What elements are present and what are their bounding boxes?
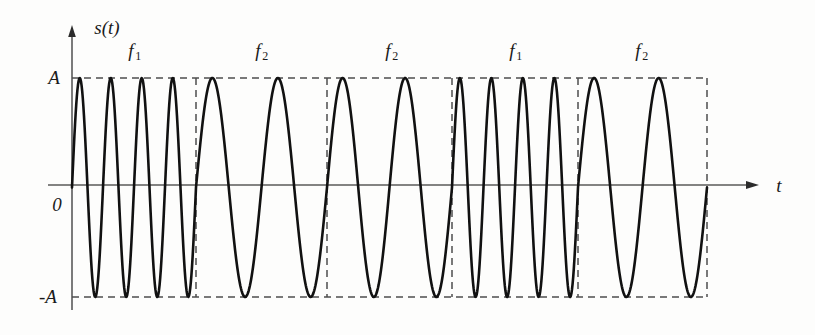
segment-frequency-label: f1 [128, 40, 141, 64]
level-negative-a-label: -A [39, 286, 57, 308]
fsk-waveform-figure: s(t) t A 0 -A f1f2f2f1f2 [0, 0, 815, 335]
segment-frequency-symbol: f [509, 40, 515, 61]
carrier-waveform [72, 78, 707, 297]
x-axis-arrow-icon [746, 181, 759, 189]
segment-frequency-symbol: f [255, 40, 261, 61]
level-a-label: A [48, 67, 60, 89]
segment-frequency-label: f2 [255, 40, 268, 64]
waveform-svg [0, 0, 815, 335]
y-axis-label: s(t) [94, 17, 119, 39]
origin-label: 0 [52, 194, 62, 216]
segment-frequency-index: 2 [641, 49, 649, 63]
x-axis-label: t [776, 175, 781, 197]
segment-frequency-label: f1 [509, 40, 522, 64]
y-axis-arrow-icon [68, 25, 76, 37]
segment-frequency-index: 2 [391, 49, 399, 63]
segment-frequency-label: f2 [635, 40, 648, 64]
segment-frequency-symbol: f [635, 40, 641, 61]
segment-frequency-index: 2 [261, 49, 269, 63]
segment-frequency-index: 1 [515, 49, 523, 63]
segment-frequency-symbol: f [128, 40, 134, 61]
segment-frequency-label: f2 [385, 40, 398, 64]
segment-frequency-index: 1 [134, 49, 142, 63]
segment-frequency-symbol: f [385, 40, 391, 61]
